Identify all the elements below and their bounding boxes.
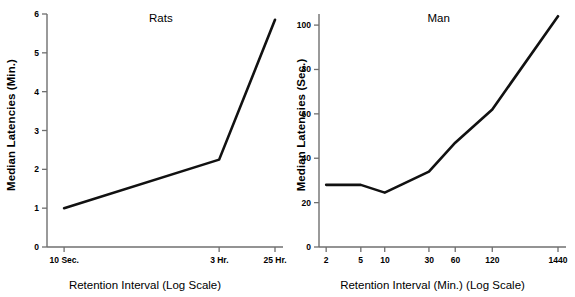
y-tick-label: 20	[302, 198, 311, 208]
y-tick-label: 100	[297, 20, 311, 30]
x-tick-label: 3 Hr.	[210, 255, 228, 265]
x-tick-label: 5	[358, 255, 363, 265]
y-tick-label: 80	[302, 64, 311, 74]
data-line	[64, 20, 275, 208]
y-tick-label: 2	[34, 164, 39, 174]
y-tick-label: 0	[306, 242, 311, 252]
data-line	[326, 16, 558, 192]
x-axis-label-rats: Retention Interval (Log Scale)	[0, 279, 290, 291]
x-tick-label: 25 Hr.	[264, 255, 287, 265]
plot-area-man	[290, 0, 575, 297]
y-tick-label: 5	[34, 48, 39, 58]
x-tick-label: 1440	[549, 255, 568, 265]
x-tick-label: 10	[380, 255, 389, 265]
x-tick-label: 120	[485, 255, 499, 265]
y-tick-label: 40	[302, 153, 311, 163]
y-tick-label: 1	[34, 203, 39, 213]
x-tick-label: 10 Sec.	[50, 255, 79, 265]
x-tick-label: 2	[324, 255, 329, 265]
y-tick-label: 4	[34, 87, 39, 97]
x-tick-label: 60	[451, 255, 460, 265]
y-tick-label: 6	[34, 9, 39, 19]
x-axis-label-man: Retention Interval (Min.) (Log Scale)	[290, 279, 575, 291]
y-tick-label: 0	[34, 242, 39, 252]
figure-two-panel-line-charts: Median Latencies (Min.) Rats Retention I…	[0, 0, 575, 297]
y-tick-label: 3	[34, 126, 39, 136]
chart-panel-man: Median Latencies (Sec.) Man Retention In…	[290, 0, 575, 297]
chart-panel-rats: Median Latencies (Min.) Rats Retention I…	[0, 0, 290, 297]
x-tick-label: 30	[424, 255, 433, 265]
plot-area-rats	[0, 0, 290, 297]
y-tick-label: 60	[302, 109, 311, 119]
